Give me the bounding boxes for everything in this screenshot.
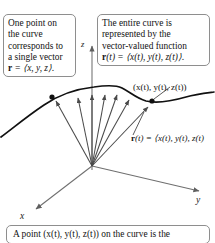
vector-curve-figure: z y x (x(t), y(t), z(t)) r(t) = ⟨x(t), y… bbox=[0, 0, 215, 243]
vector-function-label: r(t) = ⟨x(t), y(t), z(t) bbox=[131, 133, 204, 143]
axis-y bbox=[92, 166, 199, 191]
vector-function-expression: (t) = ⟨x(t), y(t), z(t) bbox=[135, 133, 204, 143]
callout-right-line-2: represented by the bbox=[102, 29, 205, 40]
callout-right-line-3: vector-valued function bbox=[102, 41, 205, 52]
curve-point-markers bbox=[49, 94, 154, 103]
callout-right-formula-rest: (t) = ⟨x(t), y(t), z(t)⟩. bbox=[106, 52, 184, 62]
callout-left-line-1: One point on bbox=[8, 18, 71, 29]
callout-left-formula: r = ⟨x, y, z⟩. bbox=[8, 63, 71, 74]
axis-label-y: y bbox=[196, 195, 200, 205]
axis-x bbox=[36, 166, 92, 209]
space-curve bbox=[1, 86, 214, 137]
curve-point-label: (x(t), y(t), z(t)) bbox=[133, 82, 186, 92]
axis-label-z: z bbox=[81, 39, 84, 49]
callout-left-line-4: a single vector bbox=[8, 52, 71, 63]
callout-bottom-caption: A point (x(t), y(t), z(t)) on the curve … bbox=[6, 225, 210, 243]
callout-left-formula-rest: = ⟨x, y, z⟩. bbox=[12, 63, 54, 73]
callout-left-line-3: corresponds to bbox=[8, 41, 71, 52]
callout-left-point-vector: One point on the curve corresponds to a … bbox=[3, 14, 76, 77]
axis-label-x: x bbox=[20, 211, 24, 221]
position-vectors bbox=[56, 95, 148, 166]
callout-left-line-2: the curve bbox=[8, 29, 71, 40]
callout-right-formula: r(t) = ⟨x(t), y(t), z(t)⟩. bbox=[102, 52, 205, 63]
callout-right-line-1: The entire curve is bbox=[102, 18, 205, 29]
callout-bottom-text: A point (x(t), y(t), z(t)) on the curve … bbox=[13, 229, 204, 240]
leader-lines bbox=[133, 87, 170, 135]
callout-right-curve-function: The entire curve is represented by the v… bbox=[97, 14, 210, 66]
